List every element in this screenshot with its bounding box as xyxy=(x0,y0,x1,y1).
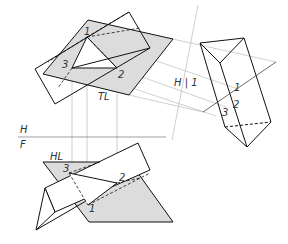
front-point-1-label: 1 xyxy=(89,204,95,214)
aux-point-2-label: 2 xyxy=(233,100,239,110)
fold-h-label: H xyxy=(20,125,28,135)
fold-h1-label: H | 1 xyxy=(174,78,198,88)
fold-f-label: F xyxy=(20,140,26,150)
aux-point-3-label: 3 xyxy=(222,108,228,118)
top-point-3-label: 3 xyxy=(62,60,68,70)
horizontal-line-label: HL xyxy=(50,152,63,162)
geometry-drawing xyxy=(0,0,288,244)
drawing-canvas: 1 3 2 TL H | 1 H F 1 2 3 HL 3 2 1 xyxy=(0,0,288,244)
top-point-1-label: 1 xyxy=(84,27,90,37)
front-point-3-label: 3 xyxy=(63,164,69,174)
front-point-2-label: 2 xyxy=(119,173,125,183)
aux-point-1-label: 1 xyxy=(234,83,240,93)
plane-top xyxy=(43,20,173,95)
true-length-label: TL xyxy=(98,92,110,102)
fold-line-h1 xyxy=(172,5,198,140)
top-point-2-label: 2 xyxy=(118,70,124,80)
